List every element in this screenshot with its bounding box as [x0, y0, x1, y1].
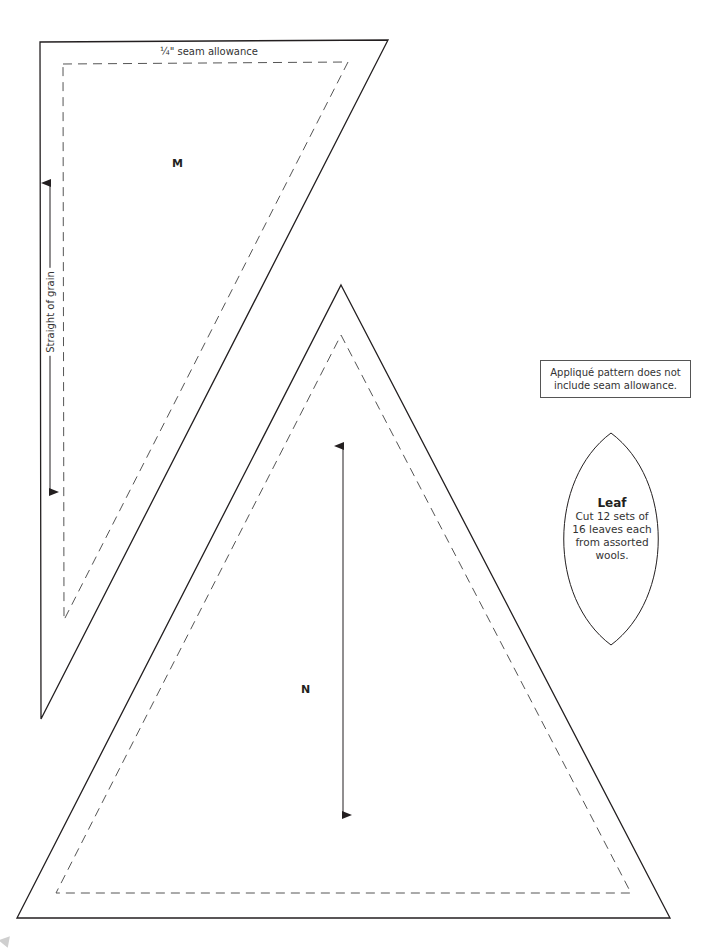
piece-m-outline	[40, 40, 388, 719]
applique-note-line: Appliqué pattern does not	[541, 366, 690, 379]
pattern-canvas	[0, 0, 723, 949]
applique-note-line: include seam allowance.	[541, 379, 690, 392]
seam-allowance-label: ¼" seam allowance	[160, 46, 258, 57]
leaf-title: Leaf	[566, 497, 658, 510]
leaf-instruction-line: from assorted	[566, 536, 658, 549]
applique-note-box: Appliqué pattern does not include seam a…	[540, 360, 691, 398]
piece-m-seam-line	[63, 62, 348, 620]
leaf-instruction-line: 16 leaves each	[566, 523, 658, 536]
piece-m-label: M	[172, 157, 183, 170]
straight-of-grain-label: Straight of grain	[45, 268, 56, 356]
piece-n-label: N	[301, 683, 310, 696]
leaf-instruction-line: wools.	[566, 549, 658, 562]
leaf-instructions: Leaf Cut 12 sets of 16 leaves each from …	[566, 497, 658, 562]
leaf-instruction-line: Cut 12 sets of	[566, 510, 658, 523]
